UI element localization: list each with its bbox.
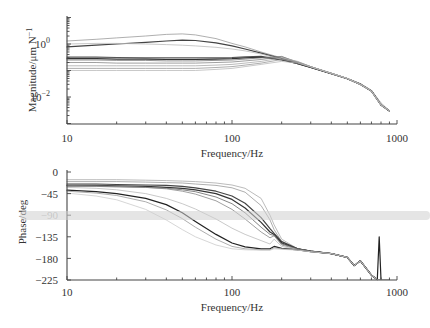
phase-x-tick-label-10: 10	[62, 286, 74, 298]
scan-smudge	[20, 211, 430, 220]
phase-x-tick-label-1000: 1000	[386, 286, 409, 298]
phase-x-axis-title: Frequency/Hz	[201, 301, 263, 313]
magnitude-x-tick-label-10: 10	[62, 132, 74, 144]
phase-y-ticks	[67, 172, 71, 280]
phase-curves	[67, 180, 390, 280]
magnitude-panel: 100 10−2 10 100 1000 Frequency/Hz Magnit…	[25, 16, 409, 159]
phase-x-tick-label-100: 100	[224, 286, 241, 298]
magnitude-curve	[67, 61, 390, 111]
magnitude-x-axis-title: Frequency/Hz	[201, 147, 263, 159]
magnitude-x-tick-label-1000: 1000	[386, 132, 409, 144]
phase-curve	[67, 191, 390, 279]
phase-x-ticks	[67, 276, 397, 280]
phase-y-tick-label-225: −225	[35, 274, 58, 286]
magnitude-x-tick-label-100: 100	[224, 132, 241, 144]
magnitude-y-ticks	[67, 18, 71, 124]
phase-y-tick-label-180: −180	[35, 253, 58, 265]
bode-plot-figure: 100 10−2 10 100 1000 Frequency/Hz Magnit…	[0, 0, 430, 328]
magnitude-curve	[67, 60, 390, 111]
phase-y-tick-label-135: −135	[35, 231, 58, 243]
phase-y-tick-label-45: −45	[41, 188, 59, 200]
magnitude-curve	[67, 58, 390, 111]
phase-y-tick-label-0: 0	[53, 166, 59, 178]
phase-curve	[67, 193, 390, 279]
magnitude-x-ticks	[67, 120, 397, 124]
phase-curve	[67, 187, 390, 279]
magnitude-curve	[67, 40, 390, 111]
phase-curve	[67, 186, 390, 279]
magnitude-curve	[67, 57, 390, 111]
phase-curve	[67, 190, 390, 279]
phase-curve	[67, 182, 390, 280]
magnitude-y-axis-title: Magnitude/μm N−1	[25, 28, 38, 112]
phase-panel: 0 −45 −90 −135 −180 −225 10 100 1000 Fre…	[16, 166, 430, 313]
magnitude-curves	[67, 34, 390, 111]
phase-y-axis-title: Phase/deg	[16, 199, 28, 244]
